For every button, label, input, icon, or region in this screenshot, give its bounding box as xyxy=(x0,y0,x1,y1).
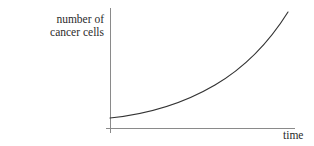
x-axis-label: time xyxy=(283,129,303,142)
y-axis-label-line-2: cancer cells xyxy=(8,26,104,39)
y-axis-label-line-1: number of xyxy=(8,13,104,26)
cancer-cell-growth-figure: number of cancer cells time xyxy=(0,0,314,146)
exponential-growth-curve xyxy=(110,12,288,118)
y-axis-label: number of cancer cells xyxy=(8,13,104,39)
